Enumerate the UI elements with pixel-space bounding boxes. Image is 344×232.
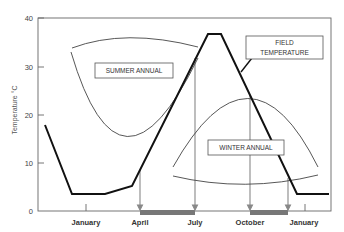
summer-annual-label: SUMMER ANNUAL [95, 63, 173, 78]
winter-germination-window [250, 210, 288, 215]
svg-text:FIELD: FIELD [275, 39, 294, 46]
summer-annual-curves [71, 38, 198, 137]
temperature-chart: 40 30 20 10 0 Temperature °C January Apr… [0, 0, 344, 232]
svg-text:SUMMER ANNUAL: SUMMER ANNUAL [106, 67, 163, 74]
month-label-january-next: January [290, 218, 320, 227]
y-tick-20: 20 [25, 111, 33, 120]
svg-text:WINTER ANNUAL: WINTER ANNUAL [219, 144, 273, 151]
y-tick-10: 10 [25, 159, 33, 168]
month-label-july: July [187, 218, 203, 227]
summer-germination-window [140, 210, 195, 215]
y-axis-title: Temperature °C [11, 85, 19, 134]
y-tick-40: 40 [25, 14, 33, 23]
svg-text:TEMPERATURE: TEMPERATURE [260, 49, 309, 56]
y-tick-0: 0 [29, 207, 33, 216]
month-label-january: January [72, 218, 102, 227]
month-label-october: October [236, 218, 265, 227]
field-temperature-label: FIELD TEMPERATURE [241, 36, 323, 72]
month-label-april: April [131, 218, 148, 227]
winter-annual-label: WINTER ANNUAL [208, 140, 284, 155]
y-axis [38, 18, 44, 163]
y-tick-30: 30 [25, 63, 33, 72]
